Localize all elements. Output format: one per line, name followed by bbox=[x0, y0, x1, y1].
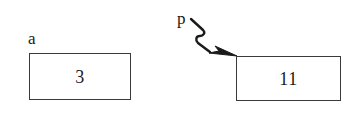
variable-label-a: a bbox=[28, 30, 36, 47]
diagram-canvas: a 3 p 11 bbox=[0, 0, 354, 123]
value-box-target: 11 bbox=[236, 56, 341, 101]
variable-label-p: p bbox=[177, 10, 186, 27]
pointer-arrow-squiggle bbox=[191, 19, 210, 52]
value-box-target-value: 11 bbox=[279, 70, 297, 88]
pointer-arrow-head bbox=[209, 46, 237, 56]
value-box-a: 3 bbox=[29, 53, 131, 100]
value-box-a-value: 3 bbox=[75, 68, 85, 86]
